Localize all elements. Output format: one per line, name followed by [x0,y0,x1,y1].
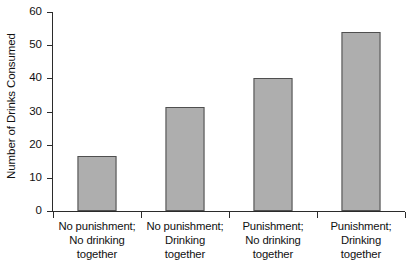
x-category-label-line: together [229,247,317,261]
x-category-label: No punishment;No drinkingtogether [53,219,141,262]
x-category-label-line: Drinking [317,233,405,247]
bar-slot [229,12,317,211]
bar[interactable] [342,32,381,211]
x-category-label: Punishment;No drinkingtogether [229,219,317,262]
bar[interactable] [254,78,293,211]
y-tick-label: 10 [18,172,42,184]
y-tick-label: 50 [18,39,42,51]
y-tick-label: 60 [18,6,42,18]
y-tick-label: 30 [18,106,42,118]
bar-chart: Number of Drinks Consumed 0102030405060 … [0,0,415,275]
x-category-label-line: together [141,247,229,261]
x-category-label-line: No drinking [229,233,317,247]
y-tick-label: 40 [18,73,42,85]
x-axis-category-labels: No punishment;No drinkingtogetherNo puni… [53,219,405,271]
bar[interactable] [78,156,117,211]
x-category-label-line: together [53,247,141,261]
x-tick-mark [405,212,406,218]
y-tick-label: 20 [18,139,42,151]
bar-slot [317,12,405,211]
plot-area [53,12,405,211]
x-category-label: Punishment;Drinkingtogether [317,219,405,262]
bar-slot [141,12,229,211]
bar-slot [53,12,141,211]
y-tick-label: 0 [18,205,42,217]
x-category-label-line: Drinking [141,233,229,247]
y-axis-tick-labels: 0102030405060 [18,0,42,275]
x-category-label-line: No punishment; [53,219,141,233]
x-category-label-line: Punishment; [317,219,405,233]
x-tick-mark [141,212,142,218]
x-category-label-line: together [317,247,405,261]
x-category-label: No punishment;Drinkingtogether [141,219,229,262]
bar[interactable] [166,107,205,211]
x-tick-mark [317,212,318,218]
x-tick-mark [229,212,230,218]
x-category-label-line: Punishment; [229,219,317,233]
x-tick-mark [53,212,54,218]
x-category-label-line: No drinking [53,233,141,247]
x-category-label-line: No punishment; [141,219,229,233]
